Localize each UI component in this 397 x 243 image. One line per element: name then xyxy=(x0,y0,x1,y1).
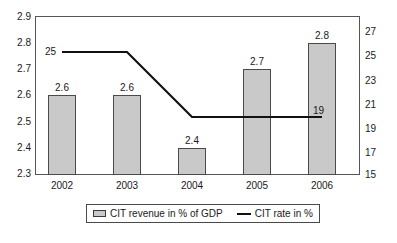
legend-entry-cit-revenue: CIT revenue in % of GDP xyxy=(93,208,223,219)
right-axis-tick: 21 xyxy=(365,100,376,110)
right-axis-tick: 17 xyxy=(365,148,376,158)
line-value-label-end: 19 xyxy=(313,105,324,116)
x-axis-label-2004: 2004 xyxy=(160,180,224,191)
bar-2003 xyxy=(113,95,141,175)
left-axis-tick: 2.8 xyxy=(0,38,31,48)
left-axis-tick: 2.9 xyxy=(0,12,31,22)
right-axis-tick: 15 xyxy=(365,170,376,180)
bar-value-label: 2.6 xyxy=(107,82,147,93)
legend: CIT revenue in % of GDP CIT rate in % xyxy=(86,204,320,223)
right-axis-tick: 25 xyxy=(365,51,376,61)
bar-2002 xyxy=(48,95,76,175)
line-swatch-icon xyxy=(237,213,251,215)
left-axis-tick: 2.3 xyxy=(0,169,31,179)
x-axis-label-2005: 2005 xyxy=(225,180,289,191)
right-axis: 27 25 23 21 19 17 15 xyxy=(365,0,395,243)
right-axis-tick: 23 xyxy=(365,76,376,86)
bar-value-label: 2.4 xyxy=(172,135,212,146)
bar-2005 xyxy=(243,69,271,175)
left-axis-tick: 2.4 xyxy=(0,143,31,153)
bar-value-label: 2.7 xyxy=(237,56,277,67)
right-axis-tick: 27 xyxy=(365,27,376,37)
bar-value-label: 2.8 xyxy=(302,30,342,41)
bar-value-label: 2.6 xyxy=(42,82,82,93)
right-axis-tick: 19 xyxy=(365,124,376,134)
left-axis-tick: 2.6 xyxy=(0,90,31,100)
x-axis-label-2003: 2003 xyxy=(95,180,159,191)
bar-swatch-icon xyxy=(93,210,106,217)
legend-label: CIT revenue in % of GDP xyxy=(110,208,223,219)
line-value-label-start: 25 xyxy=(45,46,56,57)
x-axis-label-2006: 2006 xyxy=(290,180,354,191)
x-axis-label-2002: 2002 xyxy=(30,180,94,191)
legend-entry-cit-rate: CIT rate in % xyxy=(237,208,313,219)
left-axis: 2.9 2.8 2.7 2.6 2.5 2.4 2.3 xyxy=(0,0,31,243)
left-axis-tick: 2.5 xyxy=(0,117,31,127)
left-axis-tick: 2.7 xyxy=(0,64,31,74)
chart-container: 2.9 2.8 2.7 2.6 2.5 2.4 2.3 27 25 23 21 … xyxy=(0,0,397,243)
bar-2004 xyxy=(178,148,206,175)
legend-label: CIT rate in % xyxy=(255,208,313,219)
